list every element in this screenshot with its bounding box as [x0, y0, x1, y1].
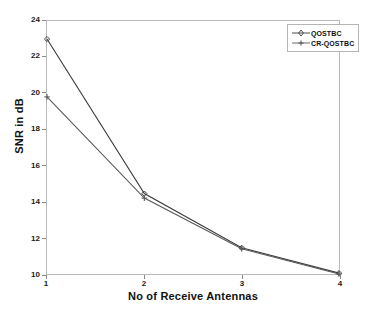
- plot-area: [46, 20, 340, 275]
- y-tick-label: 18: [31, 123, 40, 134]
- y-tick-mark: [42, 238, 46, 239]
- y-tick-mark: [42, 165, 46, 166]
- y-tick-mark: [42, 202, 46, 203]
- data-lines: [47, 21, 339, 274]
- y-tick-label: 10: [31, 269, 40, 280]
- y-tick-label: 22: [31, 50, 40, 61]
- y-tick-label: 20: [31, 87, 40, 98]
- x-tick-label: 3: [236, 279, 248, 289]
- x-axis-title: No of Receive Antennas: [46, 290, 340, 302]
- x-tick-label: 1: [40, 279, 52, 289]
- y-tick-label: 16: [31, 160, 40, 171]
- legend-label: CR-QOSTBC: [311, 40, 354, 47]
- chart-figure: 1012141618202224 1234 No of Receive Ante…: [0, 0, 365, 315]
- y-tick-mark: [42, 92, 46, 93]
- x-tick-label: 2: [138, 279, 150, 289]
- y-axis-title: SNR in dB: [13, 71, 25, 181]
- y-tick-mark: [42, 56, 46, 57]
- series-cr-qostbc: [44, 94, 342, 277]
- y-tick-mark: [42, 20, 46, 21]
- legend-item-qostbc: QOSTBC: [291, 28, 354, 38]
- y-tick-label: 12: [31, 233, 40, 244]
- y-tick-mark: [42, 129, 46, 130]
- series-qostbc: [44, 36, 341, 275]
- legend-label: QOSTBC: [311, 30, 342, 37]
- chart-legend: QOSTBC CR-QOSTBC: [287, 24, 359, 52]
- y-tick-label: 24: [31, 14, 40, 25]
- y-tick-label: 14: [31, 196, 40, 207]
- legend-item-cr-qostbc: CR-QOSTBC: [291, 38, 354, 48]
- legend-marker-diamond-icon: [291, 28, 311, 38]
- legend-marker-plus-icon: [291, 38, 311, 48]
- x-tick-label: 4: [334, 279, 346, 289]
